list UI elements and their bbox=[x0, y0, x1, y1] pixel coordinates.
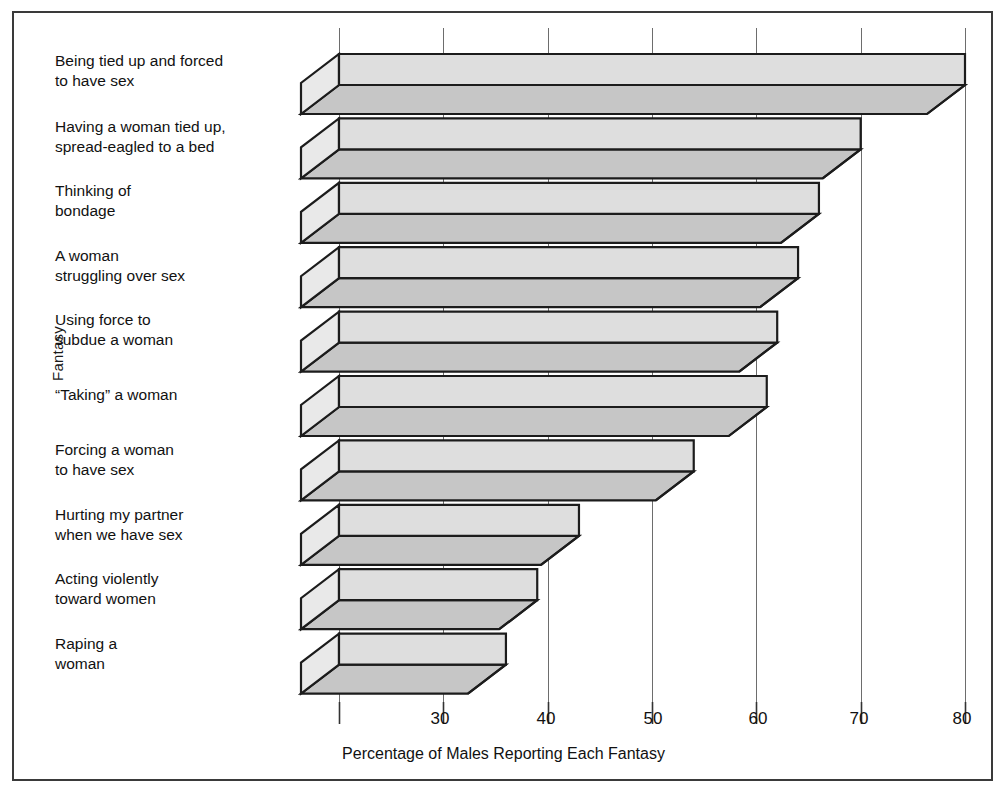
x-tick-label-30: 30 bbox=[415, 709, 465, 729]
plot-area: 30 40 50 60 70 80 bbox=[0, 0, 1007, 792]
axis-ticks-group bbox=[0, 0, 1007, 792]
x-tick-label-70: 70 bbox=[834, 709, 884, 729]
x-tick-label-80: 80 bbox=[937, 709, 987, 729]
x-tick-label-50: 50 bbox=[628, 709, 678, 729]
x-axis-title: Percentage of Males Reporting Each Fanta… bbox=[0, 745, 1007, 763]
chart-page: Fantasy Being tied up and forced to have… bbox=[0, 0, 1007, 792]
x-tick-label-40: 40 bbox=[521, 709, 571, 729]
x-tick-label-60: 60 bbox=[733, 709, 783, 729]
